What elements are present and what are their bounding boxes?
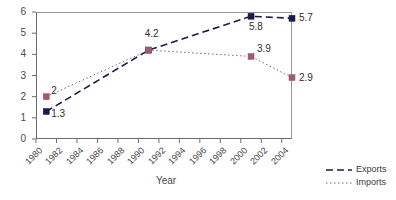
y-tick-label: 4: [4, 49, 26, 59]
y-tick-label: 3: [4, 71, 26, 81]
data-point-label: 3.9: [257, 44, 271, 54]
data-point-marker: [248, 53, 254, 59]
data-point-marker: [289, 75, 295, 81]
data-point-label: 5.8: [249, 22, 263, 32]
y-tick-label: 1: [4, 113, 26, 123]
x-axis-ticks: [36, 139, 282, 143]
y-tick-label: 0: [4, 134, 26, 144]
series-line-imports: [46, 50, 292, 97]
legend-item-imports[interactable]: Imports: [326, 176, 396, 189]
legend-label: Exports: [356, 165, 387, 174]
y-axis-ticks: [32, 12, 36, 139]
chart-legend: ExportsImports: [326, 163, 396, 189]
legend-swatch-exports: [326, 166, 352, 174]
data-point-marker: [289, 15, 295, 21]
legend-label: Imports: [356, 178, 386, 187]
legend-item-exports[interactable]: Exports: [326, 163, 396, 176]
data-point-label: 5.7: [299, 13, 313, 23]
y-tick-label: 2: [4, 92, 26, 102]
legend-swatch-imports: [326, 179, 352, 187]
y-tick-label: 5: [4, 28, 26, 38]
data-point-label: 1.3: [51, 109, 65, 119]
data-point-label: 2.9: [299, 73, 313, 83]
data-point-marker: [43, 94, 49, 100]
data-point-marker: [146, 47, 152, 53]
y-tick-label: 6: [4, 7, 26, 17]
line-chart: 0123456 19801982198419861988199019921994…: [0, 0, 396, 200]
data-point-marker: [248, 13, 254, 19]
x-axis-title: Year: [108, 175, 224, 186]
data-point-label: 4.2: [145, 29, 159, 39]
data-point-marker: [43, 108, 49, 114]
data-point-label: 2: [51, 86, 57, 96]
